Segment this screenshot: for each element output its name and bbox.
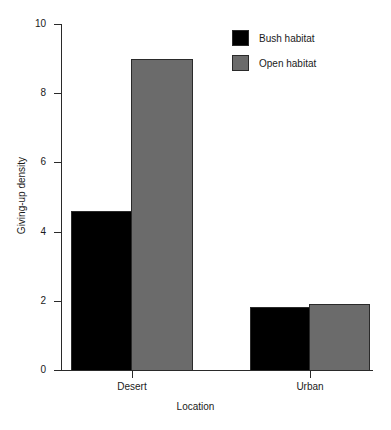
y-tick-4 [54,232,61,233]
legend-label-bush-habitat: Bush habitat [259,33,315,44]
legend-item-open-habitat: Open habitat [232,55,316,71]
bar-desert-open-habitat [131,59,193,371]
x-tick-label-desert: Desert [117,381,146,392]
y-tick-label-10: 10 [35,19,46,29]
y-tick-8 [54,93,61,94]
legend-item-bush-habitat: Bush habitat [232,30,316,46]
y-tick-label-2: 2 [40,296,46,306]
bar-urban-open-habitat [309,304,370,371]
bar-desert-bush-habitat [71,211,132,371]
chart-legend: Bush habitat Open habitat [232,30,316,71]
y-axis-title: Giving-up density [16,136,27,256]
y-tick-label-8: 8 [40,88,46,98]
y-tick-10 [54,24,61,25]
y-tick-label-6: 6 [40,157,46,167]
x-tick-desert [132,371,133,378]
y-tick-0 [54,370,61,371]
y-tick-label-0: 0 [40,365,46,375]
gray-swatch-icon [232,55,249,71]
x-tick-label-urban: Urban [296,381,323,392]
x-tick-urban [310,371,311,378]
y-tick-2 [54,301,61,302]
y-tick-label-4: 4 [40,227,46,237]
bar-chart-figure: 10 8 6 4 2 0 Desert Urban Giving-up dens… [0,0,391,430]
y-axis-line [61,24,62,371]
legend-label-open-habitat: Open habitat [259,58,316,69]
black-swatch-icon [232,30,249,46]
x-axis-title: Location [0,401,391,412]
y-tick-6 [54,162,61,163]
bar-urban-bush-habitat [250,307,310,371]
